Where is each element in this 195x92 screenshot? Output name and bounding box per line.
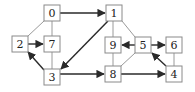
arrow-3-2 — [28, 52, 44, 70]
edge-1-5 — [122, 21, 135, 37]
node-4: 4 — [166, 66, 182, 82]
node-label: 9 — [110, 39, 117, 52]
arrow-1-3 — [61, 21, 108, 69]
node-9: 9 — [105, 37, 121, 53]
node-label: 1 — [111, 7, 118, 20]
edge-0-2 — [28, 21, 44, 36]
node-6: 6 — [166, 37, 182, 53]
node-label: 0 — [49, 7, 56, 20]
node-1: 1 — [106, 5, 122, 21]
node-0: 0 — [44, 5, 60, 21]
node-label: 4 — [171, 68, 178, 81]
edge-5-8 — [121, 53, 135, 66]
node-label: 2 — [17, 38, 24, 51]
node-2: 2 — [12, 36, 28, 52]
node-label: 7 — [49, 38, 56, 51]
graph-diagram: 0127956384 — [0, 0, 195, 92]
node-3: 3 — [44, 69, 60, 85]
node-label: 5 — [140, 39, 147, 52]
node-label: 3 — [49, 71, 56, 84]
node-label: 8 — [110, 68, 117, 81]
arrow-4-5 — [152, 53, 166, 66]
node-8: 8 — [105, 66, 121, 82]
node-7: 7 — [44, 36, 60, 52]
node-5: 5 — [135, 37, 151, 53]
node-label: 6 — [171, 39, 178, 52]
